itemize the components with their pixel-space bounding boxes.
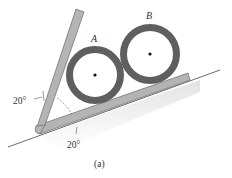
- diagram-canvas: A B 20° 20° (a): [0, 0, 232, 178]
- incline-ground-line: [8, 70, 220, 147]
- left-angle-tick: [43, 91, 44, 101]
- left-angle-label: 20°: [13, 96, 27, 106]
- ring-b-center-dot: [148, 52, 151, 55]
- left-angle-leader: [34, 97, 42, 99]
- ring-b-label: B: [146, 10, 152, 21]
- bottom-angle-label: 20°: [67, 140, 81, 150]
- ring-a: [70, 50, 121, 101]
- ground-shadow: [40, 80, 200, 150]
- ring-b: [124, 28, 177, 81]
- ring-a-label: A: [90, 33, 98, 44]
- left-angle-arc: [57, 98, 72, 114]
- ring-a-center-dot: [93, 73, 96, 76]
- figure-caption: (a): [94, 159, 105, 170]
